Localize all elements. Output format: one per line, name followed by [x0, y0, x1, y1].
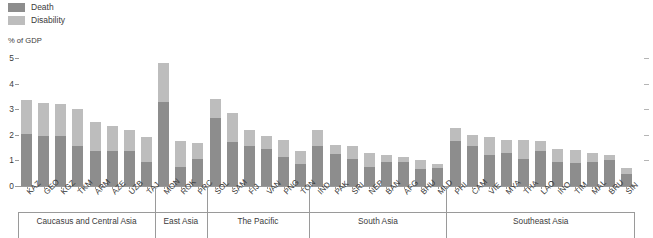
- bar-segment-death: [467, 146, 478, 186]
- bar-segment-death: [124, 151, 135, 186]
- bar-segment-disability: [210, 99, 221, 118]
- group-cell: Caucasus and Central Asia: [18, 213, 155, 238]
- bar-sri[interactable]: [347, 146, 358, 186]
- group-separator-upper: [309, 187, 310, 212]
- bar-segment-disability: [72, 109, 83, 146]
- bar-segment-disability: [192, 143, 203, 160]
- bar-segment-disability: [570, 150, 581, 163]
- bar-taj[interactable]: [141, 137, 152, 186]
- bar-segment-disability: [124, 130, 135, 152]
- bar-lao[interactable]: [535, 141, 546, 186]
- bar-segment-disability: [107, 126, 118, 152]
- bar-segment-disability: [312, 130, 323, 147]
- bar-segment-disability: [278, 140, 289, 157]
- bar-ino[interactable]: [552, 149, 563, 186]
- bar-fij[interactable]: [244, 130, 255, 186]
- bar-tim[interactable]: [570, 150, 581, 186]
- bar-uzb[interactable]: [124, 130, 135, 186]
- bar-phi[interactable]: [450, 128, 461, 186]
- bar-segment-death: [227, 142, 238, 186]
- bar-segment-disability: [467, 135, 478, 147]
- group-label: The Pacific: [207, 216, 310, 226]
- group-band: Caucasus and Central AsiaEast AsiaThe Pa…: [18, 212, 635, 238]
- bar-segment-disability: [295, 151, 306, 164]
- group-separator: [446, 213, 447, 238]
- bar-segment-death: [261, 149, 272, 186]
- bar-mal[interactable]: [587, 153, 598, 186]
- bar-segment-disability: [244, 130, 255, 147]
- bar-geo[interactable]: [38, 103, 49, 186]
- group-band-edge: [18, 213, 19, 238]
- bar-nep[interactable]: [364, 153, 375, 186]
- bar-segment-disability: [415, 160, 426, 169]
- bar-segment-disability: [261, 136, 272, 149]
- bar-segment-death: [450, 141, 461, 186]
- bar-segment-death: [210, 118, 221, 186]
- bar-cam[interactable]: [467, 135, 478, 186]
- bar-segment-death: [38, 136, 49, 186]
- bar-aze[interactable]: [107, 126, 118, 186]
- bar-vie[interactable]: [484, 137, 495, 186]
- bar-tkm[interactable]: [72, 109, 83, 186]
- bar-segment-disability: [484, 137, 495, 155]
- bar-segment-disability: [175, 141, 186, 167]
- bar-segment-disability: [552, 149, 563, 162]
- group-separator: [155, 213, 156, 238]
- group-separator-upper: [207, 187, 208, 212]
- bar-png[interactable]: [278, 140, 289, 186]
- bar-ind[interactable]: [312, 130, 323, 186]
- group-label: Caucasus and Central Asia: [18, 216, 155, 226]
- bar-pak[interactable]: [330, 145, 341, 186]
- bar-tha[interactable]: [518, 140, 529, 186]
- bar-sol[interactable]: [210, 99, 221, 186]
- bar-sam[interactable]: [227, 113, 238, 186]
- group-label: Southeast Asia: [446, 216, 635, 226]
- bar-segment-disability: [90, 122, 101, 151]
- bar-segment-death: [330, 154, 341, 186]
- bar-segment-disability: [158, 63, 169, 101]
- bar-segment-disability: [227, 113, 238, 142]
- group-cell: East Asia: [155, 213, 206, 238]
- bar-segment-disability: [38, 103, 49, 136]
- bar-segment-disability: [364, 153, 375, 167]
- bars-container: [0, 0, 653, 186]
- group-cell: South Asia: [309, 213, 446, 238]
- bar-arm[interactable]: [90, 122, 101, 186]
- bar-segment-death: [501, 153, 512, 186]
- bar-segment-disability: [141, 137, 152, 161]
- bar-segment-disability: [587, 153, 598, 162]
- bar-segment-disability: [55, 104, 66, 136]
- bar-segment-disability: [518, 140, 529, 159]
- bar-segment-death: [72, 146, 83, 186]
- group-label: South Asia: [309, 216, 446, 226]
- group-separator: [207, 213, 208, 238]
- group-cell: Southeast Asia: [446, 213, 635, 238]
- bar-segment-death: [158, 102, 169, 186]
- bar-segment-disability: [535, 141, 546, 151]
- bar-kgz[interactable]: [55, 104, 66, 186]
- bar-van[interactable]: [261, 136, 272, 186]
- bar-kaz[interactable]: [21, 100, 32, 186]
- bar-mya[interactable]: [501, 140, 512, 186]
- bar-mon[interactable]: [158, 63, 169, 186]
- bar-segment-disability: [450, 128, 461, 141]
- group-separator-upper: [446, 187, 447, 212]
- group-separator-upper: [155, 187, 156, 212]
- bar-segment-disability: [330, 145, 341, 154]
- group-label: East Asia: [155, 216, 206, 226]
- group-cell: The Pacific: [207, 213, 310, 238]
- bar-segment-death: [21, 134, 32, 186]
- group-band-edge: [634, 213, 635, 238]
- chart-plot-area: 012345 KAZGEOKGZTKMARMAZEUZBTAJMONROKPRC…: [0, 0, 653, 238]
- group-separator: [309, 213, 310, 238]
- bar-segment-disability: [501, 140, 512, 153]
- bar-segment-disability: [21, 100, 32, 133]
- bar-segment-disability: [347, 146, 358, 159]
